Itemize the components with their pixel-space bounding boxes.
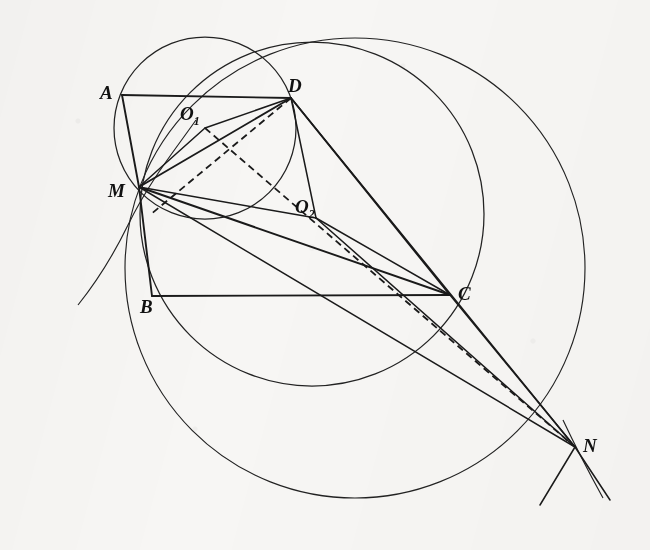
point-label-O1: O1 (180, 103, 200, 128)
point-label-D: D (287, 75, 302, 96)
point-label-M: M (107, 180, 126, 201)
point-label-C: C (458, 283, 471, 304)
point-label-B: B (139, 296, 153, 317)
point-label-O1-base: O (180, 103, 194, 124)
circle-circumscribed-MDCN (125, 38, 585, 498)
geometry-figure: A B C D M N O1 O2 (0, 0, 650, 550)
circle-group (78, 37, 603, 498)
point-label-N: N (582, 435, 598, 456)
label-group: A B C D M N O1 O2 (99, 75, 598, 456)
geometry-canvas: A B C D M N O1 O2 (0, 0, 650, 550)
segment-B-C (152, 295, 450, 296)
segment-C-N (450, 295, 575, 447)
segment-M-B (139, 187, 152, 296)
point-label-O2-base: O (295, 196, 309, 217)
segment-O2-N (316, 218, 575, 447)
segment-O2-C (316, 218, 450, 295)
segment-A-D (122, 95, 291, 98)
segment-N-tail-left (540, 447, 575, 505)
point-label-O2-subscript: 2 (308, 207, 315, 221)
point-label-O1-subscript: 1 (194, 114, 200, 128)
segment-O1-N-dashed (205, 128, 575, 447)
segment-A-M (122, 95, 139, 187)
point-label-A: A (99, 82, 113, 103)
segment-M-N (139, 187, 575, 447)
segment-group (122, 95, 610, 505)
arc-construction-left (78, 120, 196, 305)
